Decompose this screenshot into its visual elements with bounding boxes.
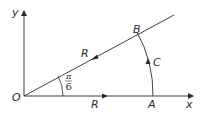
angle-denominator: 6 [66, 81, 72, 92]
direction-arrow-arc [146, 58, 151, 64]
direction-arrow-ray [91, 55, 99, 61]
angle-numerator: π [65, 72, 72, 81]
radius-ray-label: R [81, 47, 89, 60]
contour-diagram: y x O A B R R C π 6 [0, 0, 203, 115]
radius-axis-label: R [91, 98, 99, 111]
y-axis-label: y [11, 6, 19, 19]
arc-label: C [153, 56, 161, 69]
point-b-label: B [133, 23, 141, 36]
ray-ob [24, 15, 174, 96]
point-a-label: A [147, 98, 156, 111]
x-axis-label: x [185, 98, 193, 111]
origin-label: O [12, 91, 21, 104]
direction-arrow-x-axis [102, 94, 108, 99]
arc-c [137, 32, 153, 96]
angle-arc [58, 76, 63, 96]
